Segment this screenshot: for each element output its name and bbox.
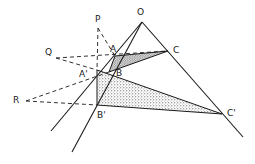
label-a: A [110,44,117,54]
dashed-line-q-a-prime [56,58,97,70]
label-r: R [13,95,19,105]
label-a-prime: A' [79,69,88,79]
label-b-prime: B' [97,110,106,120]
label-c-prime: C' [227,108,236,118]
dashed-line-r-b-prime [26,101,97,105]
label-b: B [116,68,122,78]
label-c: C [173,45,179,55]
ray-o-c-c-prime [142,22,243,137]
desargues-diagram: O P Q A C A' B R B' C' [0,0,255,164]
dashed-line-p-a-prime [97,28,98,70]
label-o: O [137,7,144,17]
label-p: P [95,14,101,24]
label-q: Q [45,47,52,57]
